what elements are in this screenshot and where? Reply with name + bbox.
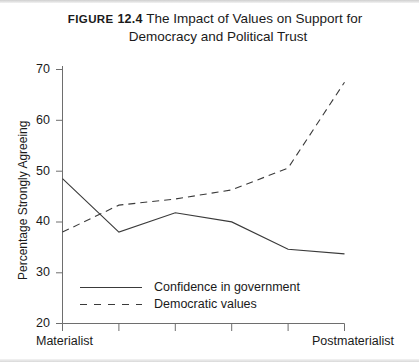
line-chart: 70 60 50 40 30 20 Percentage Strongly Ag… bbox=[0, 0, 419, 362]
chart-legend: Confidence in government Democratic valu… bbox=[80, 278, 300, 312]
x-axis-label-postmaterialist: Postmaterialist bbox=[312, 334, 394, 348]
legend-key-solid-line bbox=[80, 281, 142, 293]
y-axis-title: Percentage Strongly Agreeing bbox=[16, 121, 30, 280]
legend-label-confidence-in-government: Confidence in government bbox=[154, 280, 300, 294]
y-tick-label-70: 70 bbox=[26, 62, 50, 76]
series-line-democratic-values bbox=[63, 82, 345, 232]
figure-page: FIGURE 12.4 The Impact of Values on Supp… bbox=[0, 0, 419, 362]
legend-key-dashed-line bbox=[80, 298, 142, 310]
legend-label-democratic-values: Democratic values bbox=[154, 297, 257, 311]
y-tick-label-20: 20 bbox=[26, 316, 50, 330]
legend-item-confidence-in-government: Confidence in government bbox=[80, 278, 300, 295]
x-axis-label-materialist: Materialist bbox=[36, 334, 93, 348]
series-line-confidence-in-government bbox=[63, 179, 345, 254]
legend-item-democratic-values: Democratic values bbox=[80, 295, 300, 312]
y-axis-ticks bbox=[56, 70, 63, 324]
x-axis-ticks bbox=[63, 324, 345, 332]
